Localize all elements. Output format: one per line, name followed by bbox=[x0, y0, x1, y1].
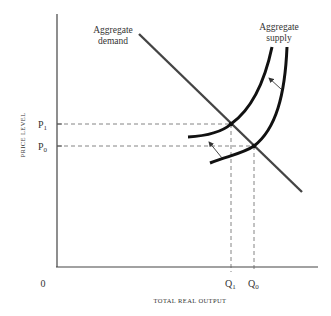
as-label-line1: Aggregate bbox=[259, 22, 299, 32]
equilibrium-point-1 bbox=[229, 122, 233, 126]
y-axis-title: PRICE LEVEL bbox=[19, 112, 26, 157]
shift-arrow-lower bbox=[209, 142, 222, 158]
p1-label: P1 bbox=[38, 119, 48, 132]
origin-label: 0 bbox=[41, 278, 46, 289]
p0-label: P0 bbox=[38, 141, 48, 154]
equilibrium-point-0 bbox=[252, 144, 256, 148]
shift-arrow-upper bbox=[269, 78, 281, 89]
x-axis-title: TOTAL REAL OUTPUT bbox=[154, 297, 227, 304]
aggregate-supply-demand-chart: Aggregate demand Aggregate supply P1 P0 … bbox=[0, 0, 331, 316]
ad-label-line2: demand bbox=[98, 36, 128, 46]
as-label-line2: supply bbox=[266, 33, 292, 43]
q1-label: Q1 bbox=[225, 278, 236, 291]
q0-label: Q0 bbox=[248, 278, 259, 291]
ad-label-line1: Aggregate bbox=[93, 25, 133, 35]
guide-lines bbox=[57, 124, 254, 272]
